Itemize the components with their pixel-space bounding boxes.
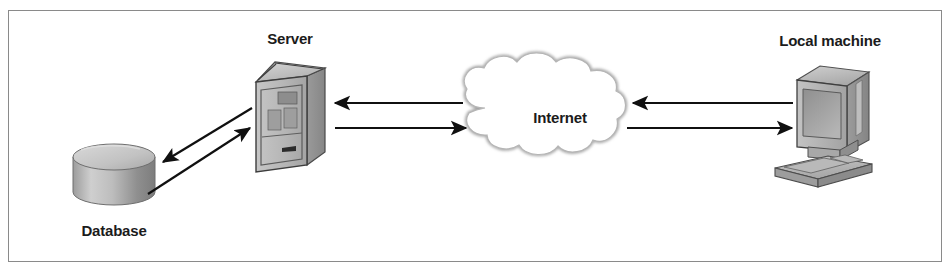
server-tower-icon [256,62,325,172]
internet-label: Internet [500,109,620,126]
cloud-icon [464,53,625,155]
diagram-figure: Server Database Internet Local machine [0,0,950,274]
local-machine-label: Local machine [760,32,900,49]
desktop-computer-icon [775,66,872,187]
database-label: Database [54,222,174,239]
database-cylinder-icon [73,144,155,205]
server-label: Server [230,30,350,47]
